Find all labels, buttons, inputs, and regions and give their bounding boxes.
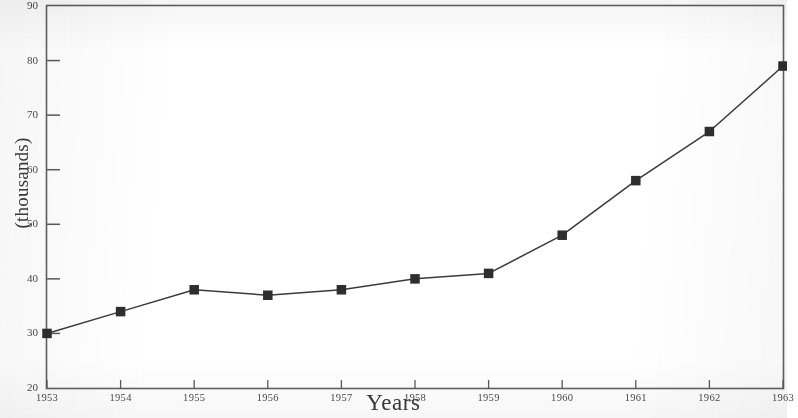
- data-point-marker: [337, 285, 347, 295]
- y-tick-label: 40: [8, 272, 38, 284]
- data-series-line: [47, 66, 783, 333]
- x-axis-ticks: [47, 380, 783, 388]
- data-point-marker: [410, 274, 420, 284]
- data-point-marker: [705, 127, 715, 137]
- y-axis-title: (thousands): [11, 123, 33, 243]
- data-point-markers: [42, 61, 787, 338]
- y-tick-label: 90: [8, 0, 38, 11]
- plot-frame: [47, 6, 784, 389]
- data-point-marker: [263, 290, 273, 300]
- data-point-marker: [631, 176, 641, 186]
- data-point-marker: [484, 269, 494, 279]
- data-point-marker: [778, 61, 787, 71]
- data-point-marker: [42, 329, 52, 339]
- y-axis-ticks: [47, 61, 60, 334]
- data-point-marker: [557, 230, 567, 240]
- x-axis-title: Years: [0, 390, 787, 416]
- y-tick-label: 70: [8, 108, 38, 120]
- data-point-marker: [116, 307, 126, 317]
- data-point-marker: [189, 285, 199, 295]
- y-tick-label: 30: [8, 326, 38, 338]
- y-tick-label: 80: [8, 54, 38, 66]
